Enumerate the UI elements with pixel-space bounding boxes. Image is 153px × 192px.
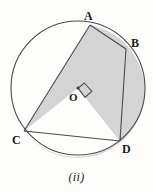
figure-caption: (ii)	[0, 171, 153, 183]
geometry-figure: A B C D O (ii)	[0, 0, 153, 192]
center-point-dot	[76, 86, 79, 89]
center-label-o: O	[69, 92, 78, 103]
vertex-label-d: D	[122, 143, 131, 155]
vertex-label-b: B	[131, 37, 139, 49]
vertex-label-c: C	[12, 134, 21, 146]
vertex-label-a: A	[84, 10, 93, 22]
